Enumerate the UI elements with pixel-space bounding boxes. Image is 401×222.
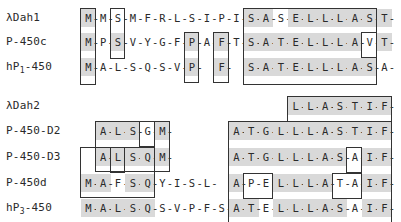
- residue: F-: [377, 97, 392, 115]
- residue: F-: [140, 9, 155, 27]
- residue: L-: [303, 122, 318, 140]
- residue: L-: [303, 58, 318, 76]
- residue: L-: [333, 9, 348, 27]
- residue: P-: [185, 58, 200, 76]
- residue: S-: [125, 122, 140, 140]
- sequence-label: λDah2: [6, 99, 40, 113]
- residue: I-: [229, 9, 244, 27]
- residue: L-: [288, 122, 303, 140]
- label-text: λDah1: [6, 11, 40, 24]
- residue: L-: [318, 9, 333, 27]
- residue: G-: [140, 122, 155, 140]
- residue: S-: [333, 97, 348, 115]
- residue: L-: [273, 122, 288, 140]
- residue: L-: [303, 148, 318, 166]
- residue: L-: [333, 58, 348, 76]
- residue: G-: [155, 33, 170, 51]
- sequence-label: P-450-D2: [6, 124, 61, 138]
- residue: M-: [81, 58, 96, 76]
- residue: G-: [259, 148, 274, 166]
- residue: P-: [185, 199, 200, 217]
- residue: I-: [362, 174, 377, 192]
- residue: T-: [229, 33, 244, 51]
- residue: E-: [288, 58, 303, 76]
- residue: F-: [377, 122, 392, 140]
- residue: M-: [81, 174, 96, 192]
- residue: F-: [111, 174, 126, 192]
- residue: T-: [377, 33, 392, 51]
- residue: A-: [318, 148, 333, 166]
- residue: V-: [170, 199, 185, 217]
- residue: A-: [96, 174, 111, 192]
- label-text: P-450-D2: [6, 124, 61, 137]
- residue: E-: [259, 174, 274, 192]
- residue: A-: [229, 174, 244, 192]
- residue: L-: [303, 199, 318, 217]
- residue: A-: [259, 9, 274, 27]
- residue: A-: [347, 9, 362, 27]
- residue: S-: [244, 33, 259, 51]
- residue: L-: [318, 33, 333, 51]
- label-text: P-450d: [6, 176, 47, 189]
- residue: I-: [362, 122, 377, 140]
- residue: V-: [362, 33, 377, 51]
- residue: M-: [81, 199, 96, 217]
- residue: F-: [377, 199, 392, 217]
- residue: A-: [318, 97, 333, 115]
- residue: A-: [229, 122, 244, 140]
- residue: S-: [244, 9, 259, 27]
- residue: A-: [96, 148, 111, 166]
- residue: G-: [259, 122, 274, 140]
- residue: A-: [318, 122, 333, 140]
- sequence-label: λDah1: [6, 11, 40, 25]
- residue: S-: [362, 58, 377, 76]
- residue: L-: [333, 33, 348, 51]
- label-text: P-450c: [6, 35, 47, 48]
- residue: T-: [347, 122, 362, 140]
- residue: L-: [303, 33, 318, 51]
- residue: Q-: [140, 58, 155, 76]
- residue: A-: [347, 174, 362, 192]
- residue: L-: [303, 174, 318, 192]
- residue: S-: [185, 174, 200, 192]
- residue: S-: [214, 199, 229, 217]
- residue: A-: [318, 199, 333, 217]
- residue: L-: [199, 174, 214, 192]
- residue: L-: [111, 199, 126, 217]
- residue: L-: [111, 58, 126, 76]
- residue: A-: [377, 58, 392, 76]
- residue: I-: [362, 148, 377, 166]
- sequence-label: P-450c: [6, 35, 47, 49]
- label-text: hP: [6, 60, 20, 73]
- residue: L-: [318, 58, 333, 76]
- residue: M-: [155, 122, 170, 140]
- residue: P-: [214, 9, 229, 27]
- residue: F-: [377, 174, 392, 192]
- residue: S-: [125, 174, 140, 192]
- residue: F-: [199, 199, 214, 217]
- residue: E-: [288, 9, 303, 27]
- label-text: hP: [6, 201, 20, 214]
- residue: F-: [214, 33, 229, 51]
- residue: T-: [244, 122, 259, 140]
- residue: S-: [333, 148, 348, 166]
- residue: A-: [96, 122, 111, 140]
- residue: S-: [185, 9, 200, 27]
- residue: F-: [214, 58, 229, 76]
- residue: S-: [125, 199, 140, 217]
- residue: I-: [362, 97, 377, 115]
- residue: S-: [244, 58, 259, 76]
- residue: Q-: [140, 174, 155, 192]
- residue: S-: [155, 58, 170, 76]
- residue: A-: [347, 148, 362, 166]
- residue: Y-: [155, 174, 170, 192]
- residue: R-: [155, 9, 170, 27]
- residue: S-: [111, 9, 126, 27]
- residue: V-: [125, 33, 140, 51]
- label-text: P-450-D3: [6, 150, 61, 163]
- residue: A-: [229, 148, 244, 166]
- sequence-label: hP1-450: [6, 60, 52, 74]
- residue: L-: [303, 97, 318, 115]
- residue: Q-: [140, 199, 155, 217]
- label-suffix: -450: [25, 60, 52, 73]
